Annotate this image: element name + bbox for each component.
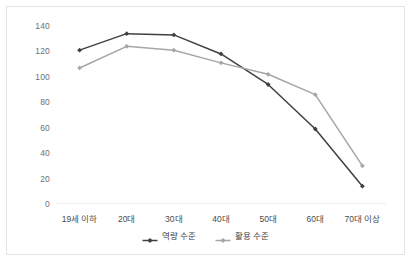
data-point-marker [124,31,129,36]
x-tick-label: 60대 [307,212,324,224]
x-tick-label: 70대 이상 [345,212,381,224]
y-tick-label: 20 [40,174,50,184]
legend-item-1[interactable]: 역량 수준 [142,229,196,241]
series-lines [56,26,386,204]
y-tick-label: 140 [35,21,50,31]
chart-legend: 역량 수준활용 수준 [7,229,404,241]
data-point-marker [124,44,129,49]
legend-marker-icon [215,231,231,240]
x-axis-tick-labels: 19세 이하20대30대40대50대60대70대 이상 [56,208,386,226]
data-point-marker [171,48,176,53]
y-tick-label: 100 [35,72,50,82]
legend-label: 역량 수준 [162,229,196,241]
x-tick-label: 40대 [212,212,229,224]
y-tick-label: 80 [40,97,50,107]
data-point-marker [77,48,82,53]
chart-frame: 020406080100120140 19세 이하20대30대40대50대60대… [6,6,405,255]
y-tick-label: 60 [40,123,50,133]
data-point-marker [171,33,176,38]
plot-area: 020406080100120140 [56,26,386,204]
data-point-marker [77,66,82,71]
series-2 [77,44,365,168]
y-tick-label: 120 [35,46,50,56]
y-tick-label: 40 [40,148,50,158]
x-tick-label: 20대 [118,212,135,224]
legend-label: 활용 수준 [235,229,269,241]
x-tick-label: 50대 [259,212,276,224]
legend-marker-icon [142,231,158,240]
y-tick-label: 0 [45,199,50,209]
data-point-marker [219,60,224,65]
x-tick-label: 30대 [165,212,182,224]
series-line [80,34,363,187]
series-1 [77,31,365,188]
data-point-marker [266,72,271,77]
x-tick-label: 19세 이하 [62,212,98,224]
legend-item-2[interactable]: 활용 수준 [215,229,269,241]
